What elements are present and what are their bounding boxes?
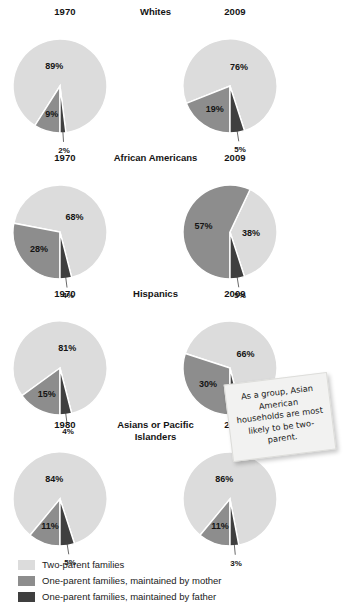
pie-chart: 89%9%2% xyxy=(8,34,128,154)
year-label-left: 1970 xyxy=(35,152,95,163)
legend-swatch-father xyxy=(18,592,35,602)
legend-item: Two-parent families xyxy=(18,557,338,572)
year-label-right: 2009 xyxy=(205,6,265,17)
group-title: Asians or Pacific Islanders xyxy=(108,419,203,443)
legend-swatch-two_parent xyxy=(18,560,35,570)
chart-group-header: 1970African Americans2009 xyxy=(0,152,346,180)
chart-group-header: 1970Whites2009 xyxy=(0,6,346,34)
group-title: Whites xyxy=(108,6,203,18)
chart-group: 1970Whites200989%9%2%76%19%5% xyxy=(0,6,346,134)
legend: Two-parent familiesOne-parent families, … xyxy=(18,557,338,605)
callout-note: As a group, Asian American households ar… xyxy=(224,372,337,462)
pie-chart: 81%15%4% xyxy=(8,316,128,436)
pie-chart: 68%28%4% xyxy=(8,180,128,300)
legend-label: One-parent families, maintained by fathe… xyxy=(42,591,216,602)
year-label-right: 2009 xyxy=(205,288,265,299)
year-label-left: 1980 xyxy=(35,419,95,430)
legend-label: One-parent families, maintained by mothe… xyxy=(42,575,222,586)
pie-svg xyxy=(8,180,128,300)
pie-svg xyxy=(178,180,298,300)
year-label-right: 2009 xyxy=(205,152,265,163)
legend-swatch-mother xyxy=(18,576,35,586)
pie-chart: 38%57%5% xyxy=(178,180,298,300)
legend-item: One-parent families, maintained by mothe… xyxy=(18,573,338,588)
pie-chart: 84%11%5% xyxy=(8,447,128,567)
year-label-left: 1970 xyxy=(35,288,95,299)
pies-row: 84%11%5%86%11%3% xyxy=(0,447,346,547)
callout-note-text: As a group, Asian American households ar… xyxy=(233,382,327,450)
group-title: Hispanics xyxy=(108,288,203,300)
pies-row: 68%28%4%38%57%5% xyxy=(0,180,346,280)
chart-group: 1970African Americans200968%28%4%38%57%5… xyxy=(0,152,346,280)
pies-row: 89%9%2%76%19%5% xyxy=(0,34,346,134)
chart-group-header: 1970Hispanics2009 xyxy=(0,288,346,316)
pie-svg xyxy=(8,447,128,567)
pie-svg xyxy=(8,34,128,154)
pie-svg xyxy=(178,447,298,567)
group-title: African Americans xyxy=(108,152,203,164)
pie-chart: 86%11%3% xyxy=(178,447,298,567)
pie-svg xyxy=(178,34,298,154)
pie-chart-figure: 1970Whites200989%9%2%76%19%5%1970African… xyxy=(0,0,346,609)
pie-chart: 76%19%5% xyxy=(178,34,298,154)
legend-item: One-parent families, maintained by fathe… xyxy=(18,589,338,604)
year-label-left: 1970 xyxy=(35,6,95,17)
legend-label: Two-parent families xyxy=(42,559,124,570)
pie-svg xyxy=(8,316,128,436)
pie-slice-mother xyxy=(13,223,60,279)
